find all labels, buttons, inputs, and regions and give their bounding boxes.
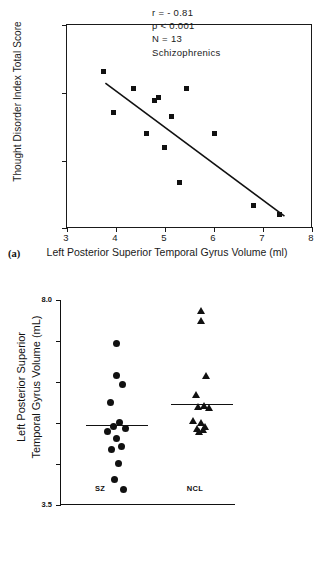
- panel-b-data-point-ncl: [197, 317, 205, 324]
- panel-b-y-axis-label-line2: Temporal Gyrus Volume (mL): [29, 272, 44, 502]
- stat-sample-size: N = 13: [152, 32, 221, 45]
- panel-b-y-axis-label-line1: Left Posterior Superior: [14, 272, 29, 502]
- stat-correlation: r = - 0.81: [152, 6, 221, 19]
- panel-b-data-point-sz: [111, 476, 118, 483]
- panel-b-data-point-ncl: [195, 428, 203, 435]
- panel-a-xtick-label-4: 4: [105, 232, 125, 243]
- panel-a-data-point: [212, 131, 217, 136]
- figure-container: Thought Disorder Index Total Score 1,000…: [0, 0, 334, 572]
- panel-b-data-point-sz: [113, 435, 120, 442]
- panel-a-xtick-label-6: 6: [203, 232, 223, 243]
- panel-b-ytick-label-8: 8.0: [42, 295, 52, 304]
- panel-b-group-label-sz: SZ: [80, 484, 120, 493]
- panel-b-data-point-sz: [104, 428, 111, 435]
- panel-a-data-point: [144, 131, 149, 136]
- panel-b-data-point-sz: [115, 460, 122, 467]
- panel-a-data-point: [156, 95, 161, 100]
- panel-b-ytick-mark-35: [56, 505, 61, 506]
- panel-b-plot-frame: 8.0 3.5: [60, 300, 235, 505]
- panel-b-ytick-mark-minor-4: [56, 464, 61, 465]
- panel-a-x-axis-label: Left Posterior Superior Temporal Gyrus V…: [0, 246, 334, 258]
- stat-group-name: Schizophrenics: [152, 46, 221, 59]
- stat-pvalue: p < 0.001: [152, 19, 221, 32]
- panel-b-data-point-sz: [108, 446, 115, 453]
- panel-b-data-point-ncl: [197, 307, 205, 314]
- panel-b-data-point-sz: [119, 381, 126, 388]
- panel-b-ytick-label-35: 3.5: [42, 500, 52, 509]
- panel-a-label: (a): [8, 248, 20, 259]
- panel-a-xtick-label-8: 8: [301, 232, 321, 243]
- panel-b-ytick-mark-minor-2: [56, 382, 61, 383]
- panel-a-data-point: [131, 86, 136, 91]
- panel-b-data-point-sz: [113, 372, 120, 379]
- panel-a-data-point: [111, 110, 116, 115]
- panel-a-data-point: [177, 180, 182, 185]
- panel-a-data-point: [184, 86, 189, 91]
- panel-a-y-axis-label: Thought Disorder Index Total Score: [12, 0, 23, 207]
- panel-a-scatter: Thought Disorder Index Total Score 1,000…: [0, 0, 334, 265]
- panel-b-ytick-mark-8: [56, 300, 61, 301]
- panel-b-ytick-mark-minor-1: [56, 341, 61, 342]
- panel-b-data-point-sz: [113, 340, 120, 347]
- panel-b-mean-line-ncl: [171, 404, 233, 405]
- panel-b-dotplot: Left Posterior Superior Temporal Gyrus V…: [0, 272, 334, 572]
- panel-a-data-point: [277, 212, 282, 217]
- panel-a-xtick-label-7: 7: [252, 232, 272, 243]
- panel-b-data-point-sz: [110, 423, 117, 430]
- panel-b-group-label-ncl: NCL: [175, 484, 215, 493]
- panel-b-data-point-sz: [120, 486, 127, 493]
- panel-b-y-axis-label: Left Posterior Superior Temporal Gyrus V…: [14, 272, 44, 502]
- panel-a-data-point: [162, 145, 167, 150]
- panel-a-xtick-label-5: 5: [154, 232, 174, 243]
- panel-a-xtick-label-3: 3: [56, 232, 76, 243]
- panel-b-data-point-ncl: [192, 391, 200, 398]
- panel-b-data-point-sz: [107, 399, 114, 406]
- panel-b-ytick-mark-minor-3: [56, 423, 61, 424]
- panel-a-stats-annotation: r = - 0.81 p < 0.001 N = 13 Schizophreni…: [152, 6, 221, 59]
- panel-b-data-point-ncl: [202, 372, 210, 379]
- panel-a-data-point: [101, 69, 106, 74]
- panel-b-data-point-sz: [118, 443, 125, 450]
- panel-b-mean-line-sz: [86, 425, 148, 426]
- panel-a-data-point: [169, 114, 174, 119]
- panel-a-data-point: [251, 203, 256, 208]
- panel-b-data-point-ncl: [205, 404, 213, 411]
